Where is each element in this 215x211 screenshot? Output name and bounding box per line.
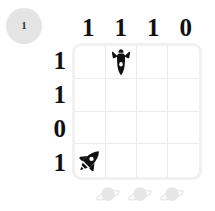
planet-icon (127, 184, 153, 206)
grid-cell-r3c3[interactable] (168, 144, 199, 177)
grid-cell-r1c2[interactable] (137, 79, 168, 112)
column-header-2: 1 (137, 12, 170, 42)
grid-cell-r3c2[interactable] (137, 144, 168, 177)
row-header-2: 0 (40, 112, 68, 146)
grid-cell-r0c3[interactable] (168, 46, 199, 79)
row-headers: 1 1 0 1 (40, 43, 68, 180)
grid-cell-r0c2[interactable] (137, 46, 168, 79)
planet-icon (95, 184, 121, 206)
planet-tray (95, 182, 185, 208)
column-header-0: 1 (72, 12, 105, 42)
grid-cell-r1c1[interactable] (106, 79, 137, 112)
grid-cell-r3c0[interactable] (75, 144, 106, 177)
grid-cell-r2c2[interactable] (137, 112, 168, 145)
column-headers: 1 1 1 0 (72, 12, 202, 42)
row-header-3: 1 (40, 146, 68, 180)
grid-cell-r0c1[interactable] (106, 46, 137, 79)
grid-cell-r2c0[interactable] (75, 112, 106, 145)
row-header-0: 1 (40, 43, 68, 77)
row-header-1: 1 (40, 77, 68, 111)
grid-cell-r2c3[interactable] (168, 112, 199, 145)
rocket-diagonal-icon (75, 144, 105, 177)
grid-cell-r0c0[interactable] (75, 46, 106, 79)
level-badge-label: 1 (22, 21, 27, 31)
level-badge: 1 (6, 8, 42, 44)
planet-icon (159, 184, 185, 206)
column-header-3: 0 (170, 12, 203, 42)
shuttle-down-icon (106, 46, 136, 78)
grid-cell-r3c1[interactable] (106, 144, 137, 177)
column-header-1: 1 (105, 12, 138, 42)
grid-cell-r1c0[interactable] (75, 79, 106, 112)
game-board-screen: 1 1 1 1 0 1 1 0 1 (0, 0, 215, 211)
grid-cell-r1c3[interactable] (168, 79, 199, 112)
puzzle-grid (72, 43, 202, 180)
grid-cell-r2c1[interactable] (106, 112, 137, 145)
